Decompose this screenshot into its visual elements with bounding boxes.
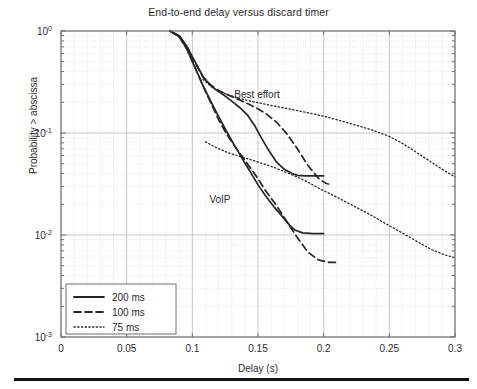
- figure-container: End-to-end delay versus discard timer Pr…: [0, 0, 477, 389]
- bottom-rule: [14, 378, 469, 381]
- plot-svg: 00.050.10.150.20.250.3 10010-110-210-3 B…: [0, 0, 477, 389]
- curve-voip-100-ms: [170, 31, 337, 262]
- curve-best-effort-100-ms: [170, 31, 332, 185]
- x-tick-label-5: 0.25: [380, 343, 400, 354]
- legend-label-0: 200 ms: [112, 292, 145, 303]
- legend-label-2: 75 ms: [112, 322, 139, 333]
- y-tick-labels: 10010-110-210-3: [35, 25, 52, 344]
- x-axis-label: Delay (s): [238, 363, 278, 374]
- y-tick-label-2: 10-2: [35, 229, 52, 242]
- annotation-voip: VoIP: [209, 194, 230, 205]
- annotation-best-effort: Best effort: [234, 89, 280, 100]
- y-tick-label-3: 10-3: [35, 331, 52, 344]
- x-tick-label-2: 0.1: [185, 343, 199, 354]
- x-tick-label-3: 0.15: [248, 343, 268, 354]
- legend: 200 ms100 ms75 ms: [66, 284, 176, 334]
- x-tick-labels: 00.050.10.150.20.250.3: [58, 343, 462, 354]
- x-tick-label-4: 0.2: [317, 343, 331, 354]
- x-tick-label-6: 0.3: [448, 343, 462, 354]
- x-tick-label-1: 0.05: [117, 343, 137, 354]
- y-tick-label-1: 10-1: [35, 127, 52, 140]
- x-tick-label-0: 0: [58, 343, 64, 354]
- legend-label-1: 100 ms: [112, 307, 145, 318]
- data-curves: [170, 31, 455, 262]
- y-tick-label-0: 100: [37, 25, 52, 38]
